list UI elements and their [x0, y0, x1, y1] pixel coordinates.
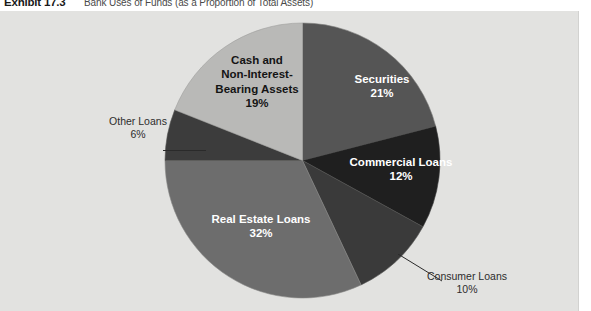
pie-callout-other-loans: Other Loans 6% [86, 115, 190, 141]
pie-callout-consumer-loans-value: 10% [409, 283, 525, 296]
panel-right-gutter [579, 11, 591, 311]
pie-label-cash-and-non-interest-bearing-assets: Cash and Non-Interest- Bearing Assets 19… [198, 53, 316, 111]
pie-callout-consumer-loans-name: Consumer Loans [427, 270, 507, 282]
pie-label-securities: Securities 21% [329, 72, 435, 100]
pie-label-commercial-loans: Commercial Loans 12% [330, 155, 472, 183]
pie-label-real-estate-loans-name: Real Estate Loans [211, 213, 310, 225]
exhibit-number-label: Exhibit 17.3 [4, 0, 66, 8]
pie-label-commercial-loans-value: 12% [330, 169, 472, 183]
pie-label-real-estate-loans: Real Estate Loans 32% [194, 212, 328, 240]
leader-line-other-loans [163, 150, 206, 152]
pie-label-commercial-loans-name: Commercial Loans [350, 156, 453, 168]
pie-callout-other-loans-name: Other Loans [109, 115, 167, 127]
exhibit-screenshot: Exhibit 17.3 Bank Uses of Funds (as a Pr… [0, 0, 591, 311]
pie-label-securities-value: 21% [329, 86, 435, 100]
exhibit-caption: Bank Uses of Funds (as a Proportion of T… [84, 0, 313, 8]
pie-label-cash-value: 19% [198, 96, 316, 110]
pie-callout-other-loans-value: 6% [86, 128, 190, 141]
pie-label-real-estate-loans-value: 32% [194, 226, 328, 240]
pie-label-cash-line-3: Bearing Assets [215, 83, 298, 95]
pie-label-securities-name: Securities [355, 73, 410, 85]
pie-label-cash-line-2: Non-Interest- [221, 68, 293, 80]
pie-label-cash-line-1: Cash and [231, 54, 283, 66]
leader-line-other-loans-stroke [163, 150, 206, 151]
pie-callout-consumer-loans: Consumer Loans 10% [409, 270, 525, 296]
